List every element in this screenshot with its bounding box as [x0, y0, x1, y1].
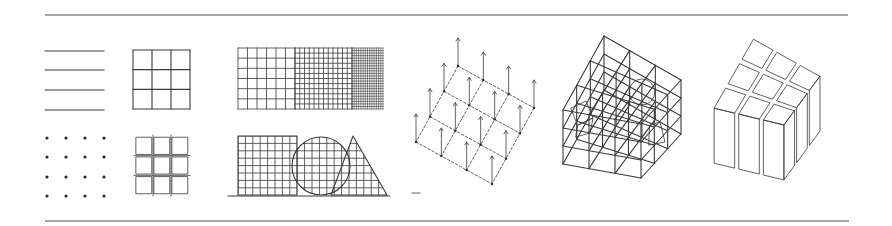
solid-block-grid-panel	[714, 39, 819, 180]
grid-point	[45, 155, 48, 158]
module-square	[172, 137, 188, 154]
grid-point	[457, 65, 459, 67]
block-side	[784, 111, 794, 180]
grid-point	[491, 183, 493, 185]
wireframe-spatial-grid-panel	[563, 36, 681, 178]
module-square	[154, 177, 170, 194]
module-square	[154, 157, 170, 174]
grid-point	[64, 175, 67, 178]
grid-point	[83, 155, 86, 158]
grid-point	[102, 194, 105, 197]
wire-edge	[641, 134, 681, 178]
grid-point	[64, 136, 67, 139]
block-top	[753, 74, 784, 99]
grid-point	[440, 155, 442, 157]
grid-point	[415, 141, 417, 143]
iso-grid-line	[492, 108, 534, 184]
iso-grid-line	[416, 142, 492, 184]
module-square	[136, 177, 152, 194]
iso-grid-line	[467, 94, 509, 170]
grid-point	[507, 93, 509, 95]
grid-point	[429, 115, 431, 117]
block-side	[739, 114, 759, 174]
embedded-cube-side	[576, 118, 593, 137]
grid-point	[479, 143, 481, 145]
square-grid-panel	[133, 50, 190, 109]
module-square	[172, 177, 188, 194]
grid-point	[533, 107, 535, 109]
spaced-module-grid-panel	[134, 135, 190, 196]
grid-point	[102, 136, 105, 139]
grid-point	[454, 129, 456, 131]
module-square	[154, 137, 170, 154]
grid-point	[45, 175, 48, 178]
horizontal-rules	[45, 15, 849, 221]
grid-point	[83, 194, 86, 197]
block-top	[790, 66, 820, 91]
grid-point	[83, 175, 86, 178]
wire-edge	[563, 36, 604, 110]
grid-point	[83, 136, 86, 139]
grid-point	[468, 104, 470, 106]
wire-edge	[589, 105, 630, 169]
module-square	[136, 137, 152, 154]
parallel-lines-panel	[45, 51, 104, 110]
wire-edge	[563, 164, 641, 178]
grid-point	[519, 132, 521, 134]
grid-point	[443, 90, 445, 92]
block-side	[714, 108, 734, 168]
grid-point	[64, 194, 67, 197]
block-top	[777, 85, 807, 108]
grid-point	[102, 155, 105, 158]
iso-grid-line	[416, 66, 458, 142]
wire-edge	[589, 87, 630, 151]
variable-density-grid-panel	[238, 48, 383, 109]
grid-point	[493, 118, 495, 120]
grid-point	[465, 169, 467, 171]
diagram-svg	[0, 0, 892, 226]
grid-point	[45, 136, 48, 139]
module-square	[172, 157, 188, 174]
block-top	[742, 39, 773, 68]
block-top	[728, 64, 759, 91]
block-top	[764, 104, 795, 125]
grid-systems-diagram	[0, 0, 892, 226]
wire-edge	[563, 54, 604, 128]
grid-point	[64, 155, 67, 158]
wire-edge	[563, 90, 604, 164]
grid-point	[482, 79, 484, 81]
block-top	[766, 53, 796, 80]
point-grid-panel	[45, 136, 105, 197]
grid-point	[45, 194, 48, 197]
grid-point	[505, 157, 507, 159]
isometric-point-field-panel	[412, 38, 536, 193]
block-side	[764, 120, 784, 180]
iso-grid-line	[441, 80, 483, 156]
block-side	[797, 94, 807, 163]
grid-point	[102, 175, 105, 178]
module-square	[136, 157, 152, 174]
shapes-on-grid-panel	[228, 130, 392, 196]
block-side	[809, 76, 819, 145]
